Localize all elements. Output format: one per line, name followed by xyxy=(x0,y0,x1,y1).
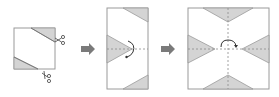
step-2-panel xyxy=(107,8,148,89)
step-3-panel xyxy=(188,8,269,89)
folding-diagram xyxy=(0,0,279,97)
scissors-icon xyxy=(42,71,51,83)
right-arrow-icon xyxy=(81,43,95,55)
step-1-panel xyxy=(14,28,65,83)
diagram-canvas xyxy=(0,0,279,97)
right-arrow-icon xyxy=(161,43,175,55)
scissors-icon xyxy=(55,35,65,44)
